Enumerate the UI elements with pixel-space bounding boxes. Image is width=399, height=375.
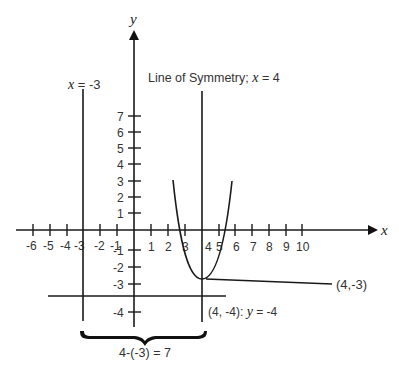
parabola-graph: x y -6 -5 -4 -3 -2 -1 1 2 3 4 5 6 7 8 9 <box>0 0 399 375</box>
brace-label: 4-(-3) = 7 <box>119 346 171 360</box>
line-x-neg3-label: x = -3 <box>67 77 101 92</box>
y-tick-labels: 7 6 5 4 3 2 1 -1 -2 -3 -4 <box>113 110 124 320</box>
y-tick-label: 6 <box>117 126 124 140</box>
directrix-label: (4, -4): y = -4 <box>208 304 278 319</box>
x-tick-labels: -6 -5 -4 -3 -2 -1 1 2 3 4 5 6 7 8 9 10 <box>26 239 310 254</box>
x-tick-label: 2 <box>165 240 172 254</box>
x-tick-label: 7 <box>250 240 257 254</box>
y-axis-label: y <box>128 11 137 27</box>
y-tick-label: -1 <box>113 244 124 258</box>
y-tick-label: 3 <box>117 175 124 189</box>
y-tick-label: 2 <box>117 191 124 205</box>
y-tick-label: -4 <box>113 306 124 320</box>
vertex-label: (4,-3) <box>336 277 367 292</box>
x-tick-label: 4 <box>205 240 212 254</box>
x-tick-label: -5 <box>43 239 54 253</box>
x-tick-label: -2 <box>94 239 105 253</box>
y-tick-label: 1 <box>117 207 124 221</box>
y-tick-label: -2 <box>113 261 124 275</box>
line-of-symmetry-label: Line of Symmetry; x = 4 <box>148 70 280 85</box>
y-tick-label: 7 <box>117 110 124 124</box>
x-tick-label: 6 <box>233 240 240 254</box>
x-tick-label: 10 <box>296 240 310 254</box>
x-tick-label: 9 <box>283 240 290 254</box>
x-tick-label: 1 <box>148 240 155 254</box>
x-tick-label: -4 <box>60 239 71 253</box>
vertex-pointer <box>206 279 332 284</box>
y-tick-label: -3 <box>113 278 124 292</box>
x-tick-label: -6 <box>26 239 37 253</box>
x-axis-label: x <box>380 222 388 238</box>
brace <box>80 331 207 346</box>
y-tick-label: 5 <box>117 142 124 156</box>
x-tick-label: 8 <box>266 240 273 254</box>
y-tick-label: 4 <box>117 158 124 172</box>
